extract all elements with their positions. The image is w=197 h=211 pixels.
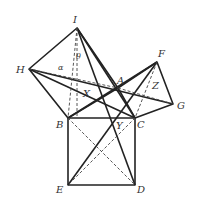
label-i: I — [72, 14, 78, 25]
diagram-canvas: I H A F G B C E D X Y Z θ α — [0, 0, 197, 211]
label-f: F — [157, 48, 166, 59]
label-theta: θ — [76, 52, 81, 61]
label-alpha: α — [58, 63, 64, 72]
label-b: B — [55, 119, 63, 130]
label-z: Z — [151, 80, 160, 91]
label-g: G — [177, 100, 185, 111]
label-x: X — [82, 88, 91, 99]
label-y: Y — [116, 120, 124, 131]
label-h: H — [15, 64, 25, 75]
geometry-figure: I H A F G B C E D X Y Z θ α — [0, 0, 197, 211]
label-e: E — [55, 184, 64, 195]
solid-lines — [29, 28, 173, 185]
square-ac — [118, 62, 173, 118]
point-labels: I H A F G B C E D X Y Z θ α — [15, 14, 185, 195]
label-c: C — [137, 119, 145, 130]
label-a: A — [116, 75, 124, 86]
line-bf — [68, 62, 157, 118]
label-d: D — [136, 184, 145, 195]
dash-ib — [68, 28, 77, 118]
